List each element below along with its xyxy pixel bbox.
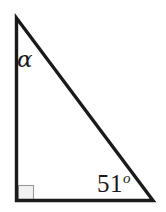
- triangle-shape: [0, 0, 166, 212]
- right-angle-marker: [19, 186, 34, 201]
- angle-value: 51: [97, 170, 123, 197]
- alpha-angle-label: α: [17, 48, 33, 71]
- triangle-outline-path: [17, 18, 154, 201]
- right-triangle-diagram: α 51o: [0, 0, 166, 212]
- angle-51-degrees-label: 51o: [97, 171, 131, 196]
- degree-symbol: o: [123, 170, 131, 186]
